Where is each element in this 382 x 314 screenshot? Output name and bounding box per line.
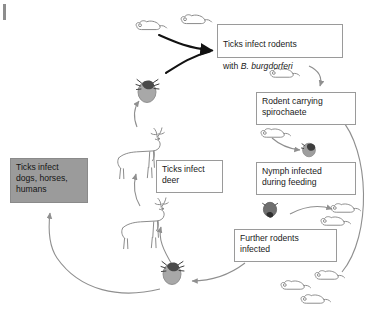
mouse-bottom-left-icon: [281, 281, 311, 290]
mouse-bottom-right-icon: [315, 271, 345, 280]
tick-adult-upper-icon: [136, 80, 159, 103]
mouse-mid-right-lower-icon: [321, 217, 351, 226]
deer-lower-icon: [122, 198, 169, 249]
nymph-tick-feeding-icon: [301, 143, 315, 157]
box-ticks-infect-rodents-line1: Ticks infect rodents: [223, 39, 297, 49]
box-ticks-infect-rodents-line2-prefix: with: [223, 61, 241, 71]
box-ticks-infect-deer: Ticks infect deer: [156, 160, 223, 193]
box-nymph-infected: Nymph infected during feeding: [256, 162, 356, 195]
nymph-tick-engorged-icon: [263, 202, 278, 217]
mouse-mid-right-upper-icon: [331, 204, 361, 213]
mouse-bottom-middle-icon: [301, 295, 331, 304]
page-edge-marker: [3, 4, 6, 20]
box-ticks-infect-rodents: Ticks infect rodents with B. burgdorferi: [217, 24, 343, 58]
box-ticks-infect-hosts: Ticks infect dogs, horses, humans: [10, 158, 88, 203]
mouse-top-right-icon: [181, 15, 212, 24]
box-ticks-infect-rodents-species: B. burgdorferi: [241, 61, 293, 71]
tick-adult-lower-icon: [161, 262, 184, 285]
mouse-top-left-icon: [136, 21, 167, 30]
box-rodent-carrying-spirochaete: Rodent carrying spirochaete: [256, 92, 356, 125]
lyme-cycle-diagram: Ticks infect rodents with B. burgdorferi…: [0, 0, 382, 314]
mouse-right-middle-icon: [261, 129, 291, 138]
box-further-rodents-infected: Further rodents infected: [234, 229, 337, 262]
